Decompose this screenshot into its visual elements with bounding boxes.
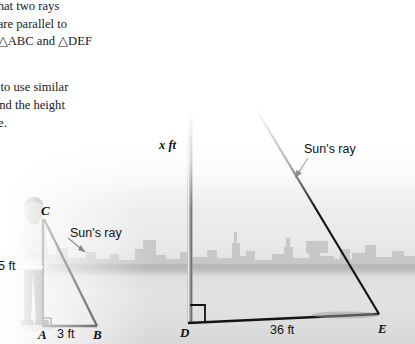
body-line-6: o find the height <box>0 97 172 115</box>
label-vertex-e: E <box>378 321 387 337</box>
label-vertex-d: D <box>180 325 189 341</box>
label-suns-ray-large: Sun's ray <box>304 142 356 156</box>
label-3-ft: 3 ft <box>57 327 74 341</box>
label-suns-ray-small: Sun's ray <box>70 226 122 240</box>
body-line-3-text: ny △ABC and △DEF <box>0 34 92 48</box>
body-line-2: un are parallel to <box>0 16 172 34</box>
label-vertex-b: B <box>93 327 102 343</box>
body-line-4: . <box>0 51 172 69</box>
label-vertex-a: A <box>38 327 47 343</box>
label-36-ft: 36 ft <box>270 323 294 337</box>
label-x-ft: x ft <box>159 138 176 153</box>
figure-canvas: ct that two rays un are parallel to ny △… <box>0 0 415 344</box>
label-x-ft-text: x ft <box>159 138 176 152</box>
body-line-5: ow to use similar <box>0 79 172 97</box>
body-line-7: pole. <box>0 115 172 133</box>
label-vertex-c: C <box>41 203 50 219</box>
body-text: ct that two rays un are parallel to ny △… <box>0 0 172 132</box>
label-5-ft: 5 ft <box>0 259 15 273</box>
body-line-3: ny △ABC and △DEF <box>0 33 172 51</box>
body-line-1: ct that two rays <box>0 0 172 16</box>
